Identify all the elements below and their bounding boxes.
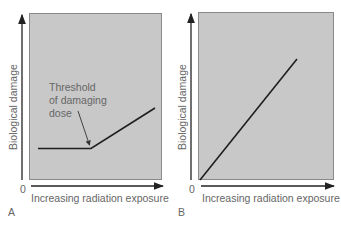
origin-label-b: 0 <box>189 183 195 195</box>
origin-label-a: 0 <box>20 183 26 195</box>
y-axis-label-b: Biological damage <box>176 64 188 150</box>
panel-b: Biological damage 0 Increasing radiation… <box>176 13 340 219</box>
annotation-line-3: dose <box>49 107 72 119</box>
annotation-line-1: Threshold <box>49 81 96 93</box>
plot-area-b <box>199 13 334 180</box>
x-axis-label-a: Increasing radiation exposure <box>31 192 169 204</box>
y-axis-label-a: Biological damage <box>7 64 19 150</box>
x-axis-label-b: Increasing radiation exposure <box>202 192 340 204</box>
panel-letter-b: B <box>178 206 185 218</box>
annotation-line-2: of damaging <box>49 94 107 106</box>
panel-a: Threshold of damaging dose Biological da… <box>7 14 169 219</box>
panel-letter-a: A <box>8 206 15 218</box>
figure: Threshold of damaging dose Biological da… <box>0 0 341 228</box>
